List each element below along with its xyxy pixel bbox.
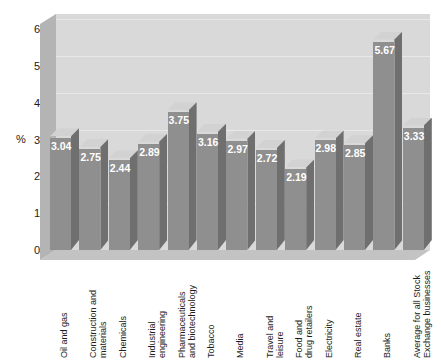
bar-value-label: 2.75	[80, 152, 100, 163]
x-label-line: leisure	[275, 331, 285, 358]
bar-front-face	[315, 140, 336, 250]
bar-value-label: 3.04	[51, 141, 71, 152]
bar-side-face	[424, 118, 432, 250]
bar-front-face	[79, 149, 100, 250]
x-label-line: drug retailers	[304, 305, 314, 358]
x-label-line: Oil and gas	[59, 312, 69, 358]
bar-value-label: 3.16	[198, 137, 218, 148]
bar-11	[373, 32, 402, 250]
x-label-line: Real estate	[353, 312, 363, 358]
plot-area: 3.042.752.442.893.753.162.972.722.192.98…	[40, 14, 430, 260]
bar-value-label: 2.97	[227, 144, 247, 155]
bar-side-face	[247, 131, 255, 250]
x-label-line: Tobacco	[206, 324, 216, 358]
bar-value-label: 2.19	[286, 172, 306, 183]
x-label-line: Average for all Stock	[412, 275, 422, 358]
y-tick-label: 2	[24, 171, 40, 182]
bar-side-face	[189, 102, 197, 250]
y-tick-label: 0	[24, 245, 40, 256]
bar-value-label: 3.75	[169, 115, 189, 126]
x-label-line: Travel and	[265, 316, 275, 358]
bar-side-face	[365, 135, 373, 250]
bar-front-face	[403, 128, 424, 250]
x-axis-labels: Oil and gasConstruction andmaterialsChem…	[40, 262, 430, 360]
x-label-line: Chemicals	[118, 316, 128, 358]
y-tick-label: 5	[24, 61, 40, 72]
bar-side-face	[218, 124, 226, 250]
y-axis-unit-label: %	[16, 134, 26, 145]
bar-side-face	[100, 139, 108, 250]
bar-chart: 0123456 % 3.042.752.442.893.753.162.972.…	[0, 0, 441, 360]
y-tick-label: 3	[24, 135, 40, 146]
y-tick-label: 1	[24, 208, 40, 219]
x-label-line: Industrial	[147, 321, 157, 358]
bar-side-face	[71, 128, 79, 250]
bar-front-face	[226, 141, 247, 250]
bar-side-face	[306, 159, 314, 250]
bar-value-label: 2.89	[139, 147, 159, 158]
x-label-line: Electricity	[324, 319, 334, 358]
gridline	[55, 19, 430, 20]
plot-floor	[40, 250, 430, 260]
bar-value-label: 2.72	[257, 153, 277, 164]
bar-front-face	[197, 134, 218, 250]
x-label-line: engineering	[157, 311, 167, 358]
bar-front-face	[168, 112, 189, 250]
bar-front-face	[138, 144, 159, 250]
x-label-line: materials	[98, 321, 108, 358]
bar-value-label: 3.33	[404, 131, 424, 142]
x-label-line: Construction and	[88, 290, 98, 358]
bar-side-face	[336, 130, 344, 250]
bar-front-face	[344, 145, 365, 250]
bar-value-label: 2.98	[316, 143, 336, 154]
bar-side-face	[159, 134, 167, 250]
bar-side-face	[394, 32, 402, 250]
bar-value-label: 2.44	[110, 163, 130, 174]
bar-side-face	[277, 140, 285, 250]
bar-value-label: 2.85	[345, 148, 365, 159]
x-label-line: Banks	[382, 333, 392, 358]
bar-side-face	[130, 150, 138, 250]
bar-value-label: 5.67	[374, 45, 394, 56]
y-tick-label: 4	[24, 98, 40, 109]
x-label-line: and biotechnology	[187, 285, 197, 358]
x-label-line: Media	[235, 333, 245, 358]
x-label-line: Exchange businesses	[422, 270, 432, 358]
y-tick-label: 6	[24, 24, 40, 35]
x-label-line: Pharmaceuticals	[177, 291, 187, 358]
y-axis: 0123456	[18, 0, 40, 360]
bar-front-face	[50, 138, 71, 250]
bar-front-face	[256, 150, 277, 250]
x-label-line: Food and	[294, 320, 304, 358]
bar-front-face	[373, 42, 394, 250]
